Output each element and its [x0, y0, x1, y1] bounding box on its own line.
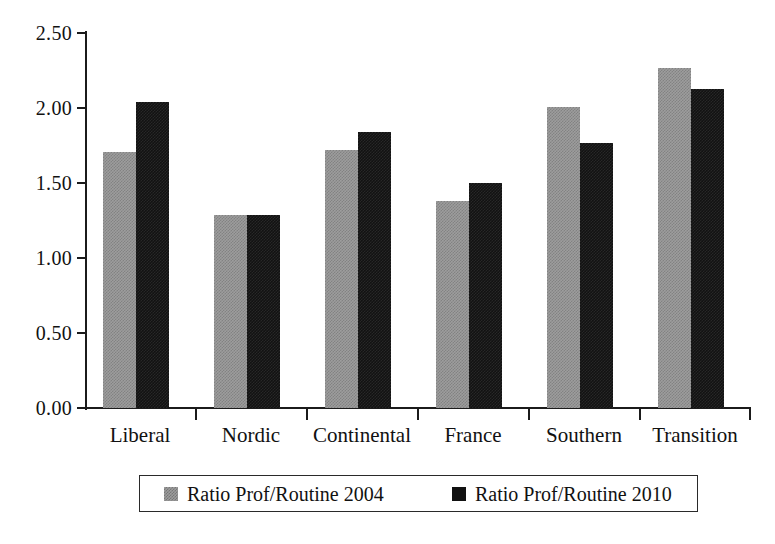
x-axis-tick-end: [749, 409, 751, 420]
bar-france-2010: [469, 183, 502, 408]
y-axis-label-1: 2.00: [10, 98, 72, 118]
bar-france-2004: [436, 201, 469, 408]
x-axis-tick: [417, 409, 419, 420]
x-axis-category-continental: Continental: [307, 423, 417, 447]
x-axis-tick: [195, 409, 197, 420]
bar-nordic-2010: [247, 215, 280, 409]
bar-liberal-2010: [136, 102, 169, 408]
bar-transition-2004: [658, 68, 691, 409]
black-swatch-icon: [452, 487, 466, 501]
legend-label-2004: Ratio Prof/Routine 2004: [187, 483, 384, 505]
legend-entry-2004: Ratio Prof/Routine 2004: [164, 483, 384, 505]
bar-nordic-2004: [214, 215, 247, 409]
x-axis-category-liberal: Liberal: [85, 423, 195, 447]
x-axis-category-nordic: Nordic: [196, 423, 306, 447]
y-axis-label-5: 0.00: [10, 398, 72, 418]
x-axis-tick: [306, 409, 308, 420]
x-axis-category-transition: Transition: [640, 423, 750, 447]
plot-area: [85, 33, 750, 408]
legend-entry-2010: Ratio Prof/Routine 2010: [452, 483, 672, 505]
bar-continental-2010: [358, 132, 391, 408]
bar-liberal-2004: [103, 152, 136, 409]
y-axis-label-2: 1.50: [10, 173, 72, 193]
x-axis-tick: [639, 409, 641, 420]
bar-chart: 2.50 2.00 1.50 1.00 0.50 0.00: [0, 0, 775, 544]
y-axis-label-4: 0.50: [10, 323, 72, 343]
bar-southern-2004: [547, 107, 580, 409]
x-axis-category-southern: Southern: [529, 423, 639, 447]
bar-continental-2004: [325, 150, 358, 408]
y-axis-label-0: 2.50: [10, 23, 72, 43]
chart-legend: Ratio Prof/Routine 2004 Ratio Prof/Routi…: [139, 475, 698, 512]
y-axis-label-3: 1.00: [10, 248, 72, 268]
bar-transition-2010: [691, 89, 724, 409]
bar-southern-2010: [580, 143, 613, 409]
legend-label-2010: Ratio Prof/Routine 2010: [475, 483, 672, 505]
x-axis-category-france: France: [418, 423, 528, 447]
gray-swatch-icon: [164, 487, 178, 501]
x-axis-tick: [528, 409, 530, 420]
